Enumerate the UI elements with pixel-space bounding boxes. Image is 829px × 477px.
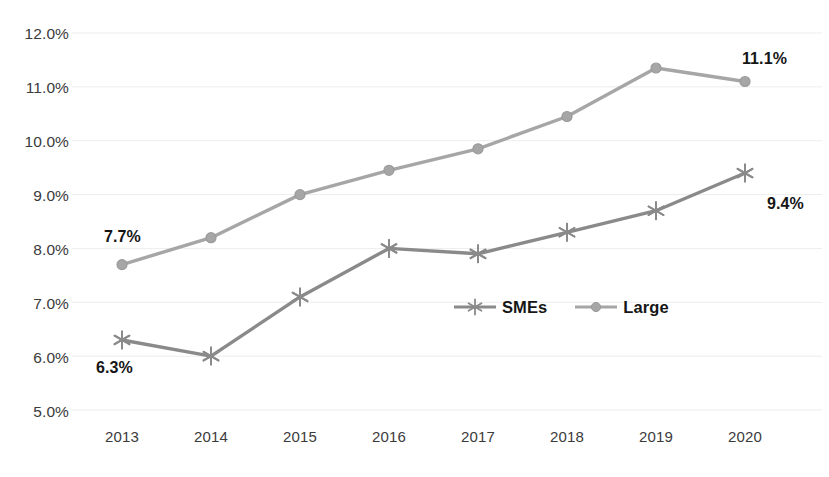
legend-item-large[interactable]: Large — [573, 297, 668, 317]
legend-item-smes[interactable]: SMEs — [452, 297, 547, 317]
data-label-smes-2013: 6.3% — [96, 359, 133, 377]
data-label-large-2020: 11.1% — [742, 50, 787, 68]
data-point-marker[interactable] — [473, 144, 483, 154]
data-point-marker[interactable] — [117, 260, 127, 270]
data-point-marker[interactable] — [295, 190, 305, 200]
gridlines — [72, 33, 822, 410]
data-point-marker[interactable] — [651, 63, 661, 73]
data-point-marker[interactable] — [384, 165, 394, 175]
legend-label-smes: SMEs — [502, 298, 547, 317]
line-chart: 12.0% 11.0% 10.0% 9.0% 8.0% 7.0% 6.0% 5.… — [0, 0, 829, 477]
series-line-smes — [122, 173, 745, 356]
data-label-smes-2020: 9.4% — [767, 195, 804, 213]
data-point-marker[interactable] — [206, 233, 216, 243]
data-point-marker[interactable] — [562, 112, 572, 122]
circle-marker-icon — [573, 297, 619, 317]
data-point-marker[interactable] — [293, 288, 308, 305]
data-point-marker[interactable] — [738, 165, 753, 182]
asterisk-marker-icon — [452, 297, 498, 317]
data-point-marker[interactable] — [740, 77, 750, 87]
series-markers — [115, 63, 753, 365]
legend-label-large: Large — [623, 298, 668, 317]
data-label-large-2013: 7.7% — [104, 228, 141, 246]
chart-legend: SMEs Large — [452, 297, 669, 317]
